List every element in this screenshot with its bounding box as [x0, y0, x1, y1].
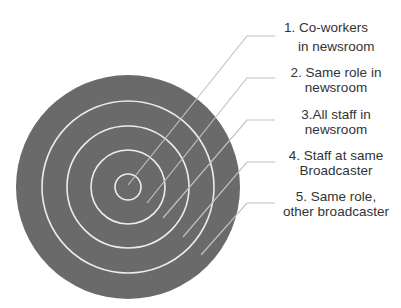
label-3-line2: newsroom [280, 122, 392, 137]
label-5-line1: 5. Same role, [280, 189, 392, 204]
label-2-line1: 2. Same role in [280, 65, 392, 80]
label-layer-1: 1. Co-workers in newsroom [276, 20, 386, 54]
label-layer-5: 5. Same role, other broadcaster [280, 189, 392, 219]
label-1-line2: in newsroom [276, 39, 386, 54]
label-layer-2: 2. Same role in newsroom [280, 65, 392, 95]
label-1-line1: 1. Co-workers [276, 20, 386, 35]
label-2-line2: newsroom [280, 80, 392, 95]
label-4-line1: 4. Staff at same [280, 148, 392, 163]
label-layer-3: 3.All staff in newsroom [280, 107, 392, 137]
label-4-line2: Broadcaster [280, 163, 392, 178]
label-3-line1: 3.All staff in [280, 107, 392, 122]
label-layer-4: 4. Staff at same Broadcaster [280, 148, 392, 178]
label-5-line2: other broadcaster [280, 204, 392, 219]
outer-disk [16, 75, 240, 299]
